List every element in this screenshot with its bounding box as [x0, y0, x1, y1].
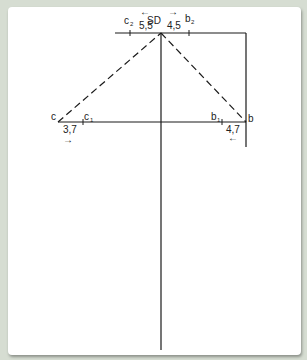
- label-c: c: [51, 111, 56, 122]
- force-diagram: SD c 2 b 2 5,5 4,5 ← → c c 1 3,7 → b b 1…: [0, 0, 307, 360]
- arrow-bottom-left: →: [63, 134, 73, 145]
- label-top-c: c: [124, 15, 129, 26]
- label-c1: c: [84, 111, 89, 122]
- dim-top-left: 5,5: [139, 20, 153, 31]
- left-diagonal-dashed: [58, 33, 161, 122]
- label-b: b: [248, 113, 254, 124]
- arrow-top-right: →: [168, 6, 178, 17]
- label-top-b-sub: 2: [191, 19, 195, 25]
- arrow-bottom-right: ←: [228, 132, 238, 143]
- label-top-c-sub: 2: [130, 21, 134, 27]
- dim-top-right: 4,5: [167, 20, 181, 31]
- right-diagonal-dashed: [161, 33, 246, 122]
- arrow-top-left: ←: [140, 6, 150, 17]
